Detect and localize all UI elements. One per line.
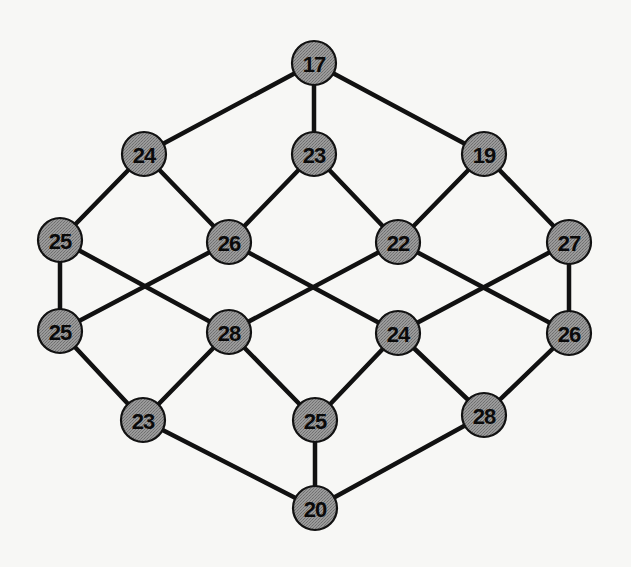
graph-node: 20 xyxy=(293,486,337,530)
node-label: 17 xyxy=(303,52,326,77)
node-label: 23 xyxy=(303,143,326,168)
node-label: 20 xyxy=(304,497,327,522)
node-label: 26 xyxy=(558,322,581,347)
graph-node: 25 xyxy=(38,218,82,262)
node-label: 27 xyxy=(558,231,581,256)
node-label: 23 xyxy=(132,409,155,434)
graph-node: 26 xyxy=(547,311,591,355)
graph-node: 26 xyxy=(207,220,251,264)
node-label: 25 xyxy=(304,409,327,434)
node-label: 22 xyxy=(387,231,410,256)
edge-n0-n3 xyxy=(314,63,484,154)
node-label: 25 xyxy=(49,320,72,345)
graph-node: 28 xyxy=(207,310,251,354)
graph-node: 22 xyxy=(376,220,420,264)
graph-node: 28 xyxy=(462,393,506,437)
node-label: 28 xyxy=(473,404,496,429)
graph-node: 24 xyxy=(376,311,420,355)
node-label: 25 xyxy=(49,229,72,254)
graph-node: 25 xyxy=(293,398,337,442)
node-label: 24 xyxy=(133,143,157,168)
edge-n0-n1 xyxy=(144,63,314,154)
graph-diagram: 17242319252622272528242623252820 xyxy=(0,0,631,567)
node-label: 28 xyxy=(218,321,241,346)
node-label: 24 xyxy=(387,322,411,347)
graph-node: 17 xyxy=(292,41,336,85)
edge-n14-n15 xyxy=(315,415,484,508)
graph-node: 24 xyxy=(122,132,166,176)
node-label: 26 xyxy=(218,231,241,256)
node-label: 19 xyxy=(473,143,496,168)
graph-node: 19 xyxy=(462,132,506,176)
graph-node: 27 xyxy=(547,220,591,264)
graph-node: 23 xyxy=(292,132,336,176)
graph-node: 25 xyxy=(38,309,82,353)
graph-node: 23 xyxy=(121,398,165,442)
edge-n12-n15 xyxy=(143,420,315,508)
